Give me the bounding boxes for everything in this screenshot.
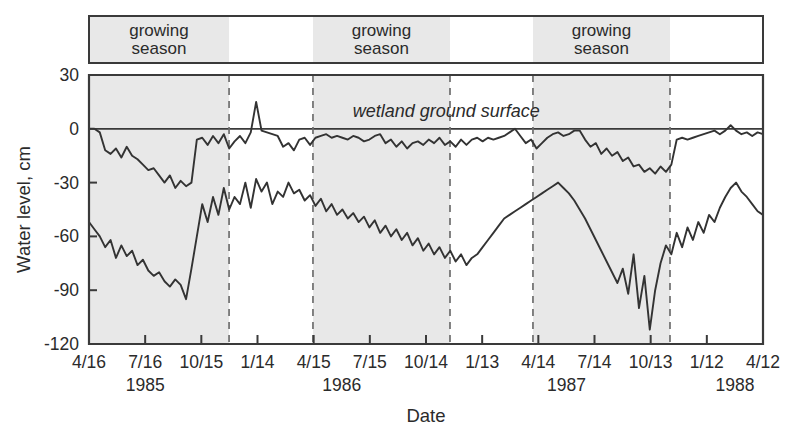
x-tick-label-12: 4/12 [746,352,780,372]
growing-season-label-2: growingseason [572,21,632,58]
y-tick-label-5: -120 [44,334,79,354]
x-tick-label-5: 7/15 [353,352,387,372]
x-tick-label-3: 1/14 [240,352,274,372]
y-tick-label-3: -60 [54,226,80,246]
plot-shaded-band-2 [533,75,670,344]
chart-canvas: growingseasongrowingseasongrowingseason3… [0,0,789,439]
year-label-2: 1987 [547,375,586,395]
y-tick-label-1: 0 [69,119,79,139]
year-label-0: 1985 [126,375,165,395]
x-tick-label-10: 10/13 [629,352,673,372]
x-tick-label-4: 4/15 [297,352,331,372]
y-tick-label-4: -90 [54,280,80,300]
plot-shaded-band-0 [89,75,229,344]
x-tick-label-7: 1/13 [465,352,499,372]
water-level-chart-figure: growingseasongrowingseasongrowingseason3… [0,0,789,439]
y-tick-label-2: -30 [54,173,80,193]
y-axis-title: Water level, cm [13,146,34,273]
year-label-1: 1986 [322,375,361,395]
x-tick-label-9: 7/14 [577,352,611,372]
x-axis-title: Date [406,405,445,426]
x-tick-label-0: 4/16 [72,352,106,372]
x-tick-label-6: 10/14 [404,352,448,372]
x-tick-label-8: 4/14 [521,352,555,372]
growing-season-label-1: growingseason [352,21,412,58]
y-tick-label-0: 30 [60,65,80,85]
x-tick-label-11: 1/12 [690,352,724,372]
growing-season-label-0: growingseason [129,21,189,58]
ground-surface-annotation: wetland ground surface [353,101,540,121]
year-label-3: 1988 [715,375,754,395]
x-tick-label-2: 10/15 [179,352,223,372]
x-tick-label-1: 7/16 [128,352,162,372]
